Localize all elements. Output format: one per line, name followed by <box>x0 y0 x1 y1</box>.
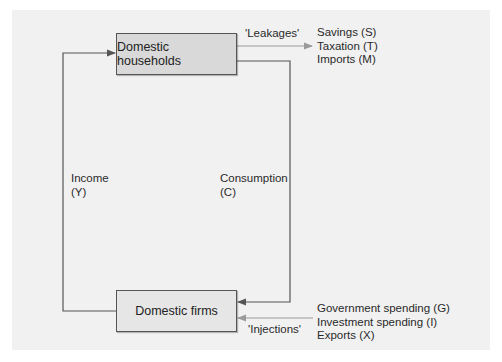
consumption-label: Consumption (C) <box>220 172 288 199</box>
injections-list: Government spending (G) Investment spend… <box>317 302 450 343</box>
leakages-label: 'Leakages' <box>245 27 299 41</box>
domestic-households-box: Domestic households <box>116 33 237 75</box>
firms-label: Domestic firms <box>135 304 218 318</box>
leakage-savings: Savings (S) <box>317 26 378 40</box>
leakage-taxation: Taxation (T) <box>317 40 378 54</box>
leakages-list: Savings (S) Taxation (T) Imports (M) <box>317 26 378 67</box>
injection-exports: Exports (X) <box>317 329 450 343</box>
income-label: Income (Y) <box>71 172 109 199</box>
injection-government: Government spending (G) <box>317 302 450 316</box>
injection-investment: Investment spending (I) <box>317 316 450 330</box>
domestic-firms-box: Domestic firms <box>116 290 237 332</box>
households-label: Domestic households <box>117 40 236 68</box>
injections-label: 'Injections' <box>248 323 301 337</box>
leakage-imports: Imports (M) <box>317 53 378 67</box>
